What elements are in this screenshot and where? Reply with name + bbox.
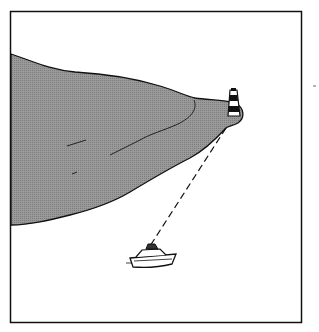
- lighthouse: [228, 88, 240, 116]
- motor-boat: [126, 244, 176, 267]
- illustration: [0, 0, 319, 332]
- headland: [11, 54, 243, 225]
